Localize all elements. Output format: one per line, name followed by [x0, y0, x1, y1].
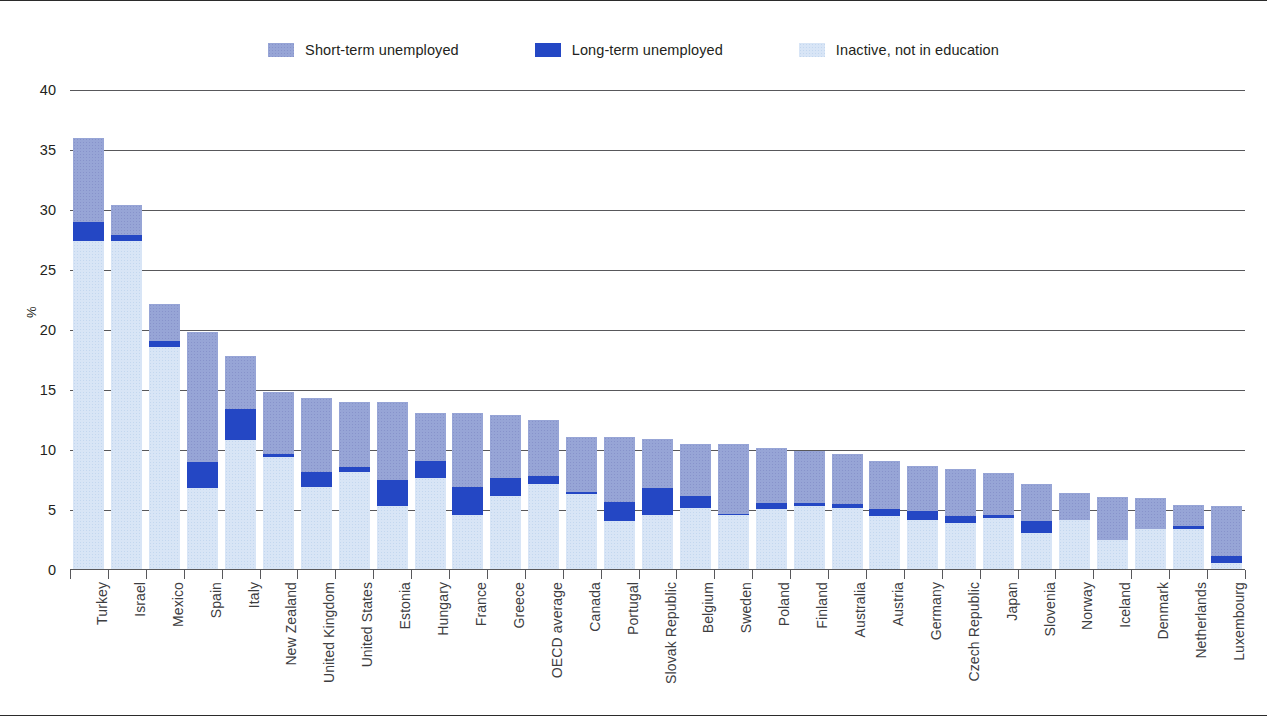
- bar-column[interactable]: [680, 90, 711, 570]
- bar-segment-inactive: [1021, 533, 1052, 570]
- x-axis-label: Greece: [511, 582, 527, 629]
- bar-column[interactable]: [452, 90, 483, 570]
- bar-segment-short-term: [832, 454, 863, 504]
- bar-column[interactable]: [149, 90, 180, 570]
- x-axis-tick: [866, 570, 867, 579]
- bar-segment-short-term: [566, 437, 597, 492]
- bar-column[interactable]: [566, 90, 597, 570]
- bar-segment-inactive: [415, 478, 446, 570]
- bar-column[interactable]: [869, 90, 900, 570]
- bar-segment-short-term: [794, 451, 825, 503]
- x-axis-label: Finland: [814, 582, 830, 629]
- x-axis-label: Germany: [928, 582, 944, 640]
- x-axis-label: Denmark: [1155, 582, 1171, 640]
- x-axis-tick: [790, 570, 791, 579]
- x-axis-label: United Kingdom: [321, 582, 337, 683]
- bar-segment-inactive: [756, 509, 787, 570]
- bar-segment-inactive: [339, 472, 370, 570]
- bar-segment-inactive: [945, 523, 976, 570]
- x-axis-tick: [70, 570, 71, 579]
- bar-column[interactable]: [832, 90, 863, 570]
- bar-segment-long-term: [869, 509, 900, 516]
- bar-segment-inactive: [490, 496, 521, 570]
- bar-column[interactable]: [1173, 90, 1204, 570]
- bar-segment-short-term: [604, 437, 635, 502]
- bar-segment-short-term: [756, 448, 787, 503]
- legend-item-short[interactable]: Short-term unemployed: [268, 42, 459, 58]
- bar-segment-long-term: [756, 503, 787, 509]
- bar-segment-short-term: [452, 413, 483, 487]
- bar-segment-long-term: [832, 504, 863, 508]
- bar-column[interactable]: [983, 90, 1014, 570]
- x-axis-tick: [1245, 570, 1246, 579]
- x-axis-tick: [260, 570, 261, 579]
- bar-segment-long-term: [73, 222, 104, 241]
- bar-column[interactable]: [73, 90, 104, 570]
- bar-segment-long-term: [377, 480, 408, 506]
- bar-segment-long-term: [149, 341, 180, 347]
- bar-segment-short-term: [339, 402, 370, 467]
- bar-column[interactable]: [1021, 90, 1052, 570]
- bar-segment-short-term: [263, 392, 294, 453]
- x-axis-tick: [222, 570, 223, 579]
- bar-column[interactable]: [604, 90, 635, 570]
- bar-column[interactable]: [1135, 90, 1166, 570]
- bar-column[interactable]: [642, 90, 673, 570]
- x-axis-label: Spain: [208, 582, 224, 618]
- bar-segment-long-term: [452, 487, 483, 515]
- y-axis-tick-label: 0: [22, 562, 56, 578]
- legend-item-inactive[interactable]: Inactive, not in education: [799, 42, 999, 58]
- bar-column[interactable]: [1211, 90, 1242, 570]
- bar-column[interactable]: [415, 90, 446, 570]
- bar-segment-inactive: [642, 515, 673, 570]
- y-axis-tick-label: 30: [22, 202, 56, 218]
- bar-segment-long-term: [566, 492, 597, 494]
- x-axis-tick: [601, 570, 602, 579]
- bar-column[interactable]: [528, 90, 559, 570]
- bar-segment-short-term: [1059, 493, 1090, 519]
- bar-column[interactable]: [756, 90, 787, 570]
- x-axis-label: Belgium: [700, 582, 716, 633]
- x-axis-tick: [563, 570, 564, 579]
- y-axis-tick-label: 20: [22, 322, 56, 338]
- bar-column[interactable]: [263, 90, 294, 570]
- bar-segment-inactive: [718, 515, 749, 570]
- x-axis-label: Luxembourg: [1231, 582, 1247, 661]
- x-axis-tick: [411, 570, 412, 579]
- x-axis-label: Australia: [852, 582, 868, 637]
- bar-column[interactable]: [945, 90, 976, 570]
- bar-segment-long-term: [1173, 526, 1204, 530]
- x-axis-label: Iceland: [1117, 582, 1133, 628]
- bar-column[interactable]: [339, 90, 370, 570]
- x-axis-tick: [335, 570, 336, 579]
- legend-label: Short-term unemployed: [305, 42, 459, 58]
- bar-column[interactable]: [794, 90, 825, 570]
- bar-segment-short-term: [377, 402, 408, 480]
- x-axis-label: Slovenia: [1042, 582, 1058, 637]
- bar-column[interactable]: [187, 90, 218, 570]
- x-axis-label: Israel: [132, 582, 148, 617]
- bar-column[interactable]: [111, 90, 142, 570]
- bar-column[interactable]: [225, 90, 256, 570]
- bar-segment-inactive: [301, 487, 332, 570]
- x-axis-label: Estonia: [397, 582, 413, 629]
- bar-column[interactable]: [718, 90, 749, 570]
- x-axis-label: Portugal: [625, 582, 641, 635]
- legend-item-long[interactable]: Long-term unemployed: [535, 42, 723, 58]
- bar-segment-long-term: [642, 488, 673, 514]
- bar-segment-long-term: [263, 454, 294, 458]
- x-axis-label: United States: [359, 582, 375, 667]
- bar-column[interactable]: [490, 90, 521, 570]
- bar-segment-long-term: [794, 503, 825, 507]
- bar-column[interactable]: [1097, 90, 1128, 570]
- bar-column[interactable]: [377, 90, 408, 570]
- bar-segment-short-term: [718, 444, 749, 514]
- bar-column[interactable]: [1059, 90, 1090, 570]
- x-axis-tick: [184, 570, 185, 579]
- bar-column[interactable]: [301, 90, 332, 570]
- x-axis-tick: [639, 570, 640, 579]
- x-axis-tick: [752, 570, 753, 579]
- x-axis-label: Norway: [1079, 582, 1095, 630]
- x-axis-label: OECD average: [549, 582, 565, 678]
- bar-column[interactable]: [907, 90, 938, 570]
